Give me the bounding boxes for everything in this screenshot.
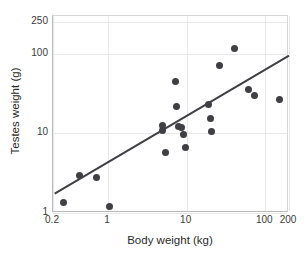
plot-area xyxy=(52,15,288,212)
y-axis-ticks: 110100250 xyxy=(0,15,48,212)
gridline-vertical xyxy=(289,16,290,211)
x-tick-label: 1 xyxy=(87,215,127,225)
x-tick-label: 0.2 xyxy=(32,215,72,225)
x-axis-label: Body weight (kg) xyxy=(52,234,288,246)
trend-line xyxy=(53,16,289,213)
gridline-horizontal xyxy=(53,213,287,214)
y-axis-label: Testes weight (g) xyxy=(9,11,21,211)
x-axis-ticks: 0.2110100200 xyxy=(52,215,288,229)
x-tick-label: 200 xyxy=(268,215,308,225)
x-tick-label: 10 xyxy=(166,215,206,225)
chart-container: 110100250 0.2110100200 Body weight (kg) … xyxy=(0,0,308,259)
